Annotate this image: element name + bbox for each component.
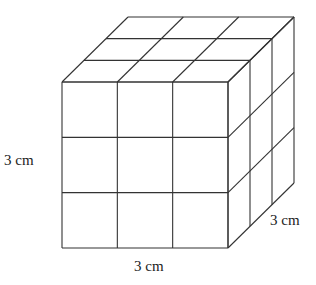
top-grid-line <box>173 17 239 82</box>
right-grid-line <box>228 128 294 193</box>
right-grid-line <box>228 72 294 137</box>
top-grid-line <box>117 17 183 82</box>
cube-drawing <box>0 0 316 285</box>
height-label: 3 cm <box>4 152 34 169</box>
top-grid-line <box>228 17 294 82</box>
width-label: 3 cm <box>134 258 164 275</box>
cube-diagram: 3 cm 3 cm 3 cm <box>0 0 316 285</box>
depth-label: 3 cm <box>270 212 300 229</box>
top-grid-line <box>62 17 128 82</box>
